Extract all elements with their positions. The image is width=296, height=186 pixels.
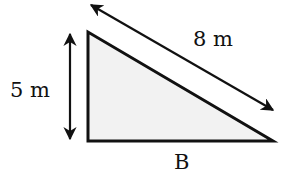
base-label: B <box>174 152 189 173</box>
right-triangle-shape <box>88 32 273 141</box>
hypotenuse-label: 8 m <box>193 29 233 50</box>
height-label: 5 m <box>10 80 50 101</box>
triangle-diagram: 5 m 8 m B <box>0 0 296 186</box>
